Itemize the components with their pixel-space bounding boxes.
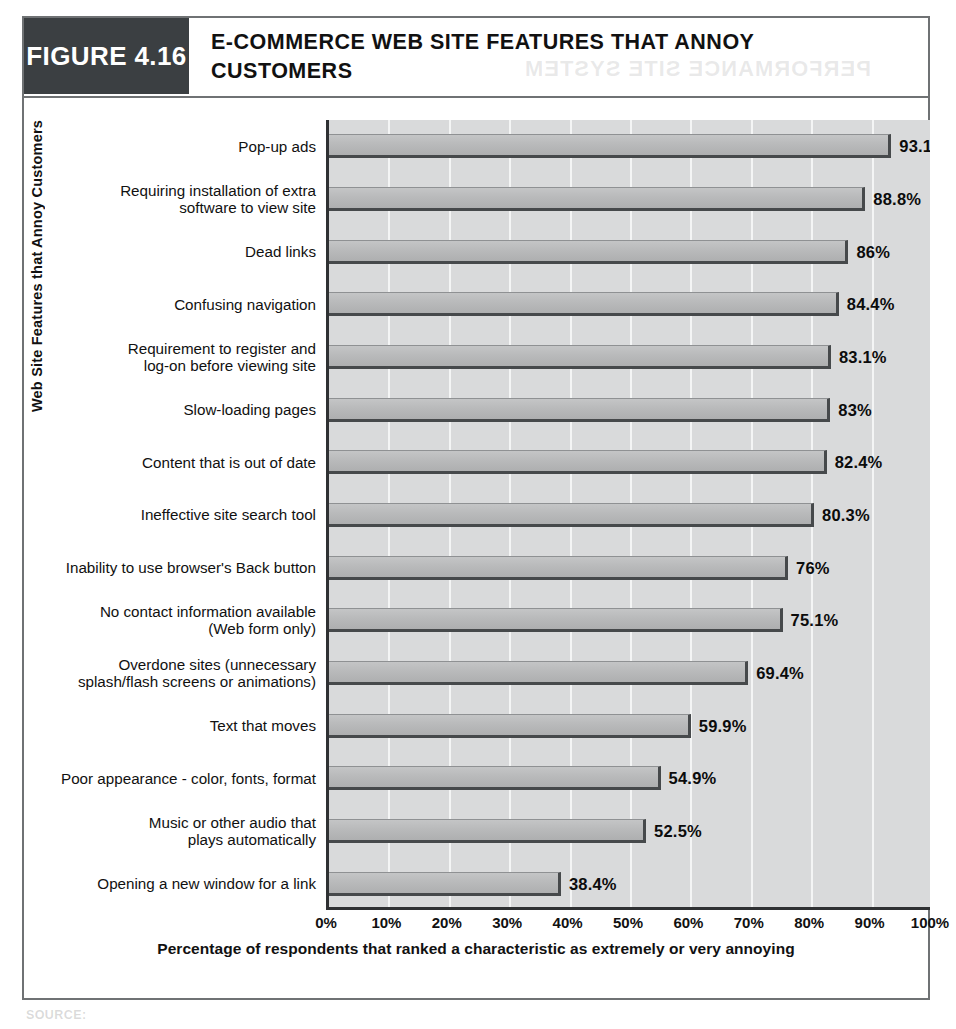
bar [329, 240, 848, 264]
bar-value-label: 83% [838, 398, 872, 422]
bar-value-label: 69.4% [756, 661, 804, 685]
bar-value-label: 52.5% [654, 819, 702, 843]
bar-value-label: 54.9% [669, 766, 717, 790]
bar-value-label: 76% [796, 556, 830, 580]
bar [329, 608, 783, 632]
x-axis-title: Percentage of respondents that ranked a … [24, 940, 928, 958]
category-label: Ineffective site search tool [141, 506, 316, 524]
x-tick-20%: 20% [432, 914, 462, 931]
x-tick-0%: 0% [315, 914, 337, 931]
bar-value-label: 82.4% [835, 450, 883, 474]
x-tick-50%: 50% [613, 914, 643, 931]
category-label: No contact information available (Web fo… [100, 603, 316, 638]
bar [329, 872, 561, 896]
category-label: Requiring installation of extra software… [120, 182, 316, 217]
category-label: Music or other audio that plays automati… [149, 814, 316, 849]
figure-title: E-COMMERCE WEB SITE FEATURES THAT ANNOY … [211, 28, 861, 85]
bar-value-label: 75.1% [791, 608, 839, 632]
category-label: Slow-loading pages [183, 401, 316, 419]
category-label: Dead links [245, 243, 316, 261]
bar [329, 556, 788, 580]
bar [329, 450, 827, 474]
bar [329, 187, 865, 211]
chart-body: Web Site Features that Annoy Customers P… [24, 96, 928, 998]
figure-frame: FIGURE 4.16 E-COMMERCE WEB SITE FEATURES… [22, 16, 930, 1000]
bar [329, 714, 691, 738]
bar-value-label: 80.3% [822, 503, 870, 527]
x-tick-80%: 80% [794, 914, 824, 931]
bar [329, 819, 646, 843]
x-tick-40%: 40% [553, 914, 583, 931]
figure-title-box: E-COMMERCE WEB SITE FEATURES THAT ANNOY … [189, 18, 928, 94]
category-label: Overdone sites (unnecessary splash/flash… [78, 656, 316, 691]
x-tick-60%: 60% [673, 914, 703, 931]
bar-value-label: 86% [856, 240, 890, 264]
gridline-90% [872, 120, 874, 907]
x-tick-70%: 70% [734, 914, 764, 931]
x-tick-10%: 10% [371, 914, 401, 931]
x-tick-100%: 100% [911, 914, 949, 931]
x-tick-30%: 30% [492, 914, 522, 931]
category-label: Confusing navigation [174, 296, 316, 314]
category-label: Pop-up ads [238, 138, 316, 156]
bar [329, 134, 891, 158]
bar-value-label: 83.1% [839, 345, 887, 369]
category-label: Poor appearance - color, fonts, format [61, 770, 316, 788]
figure-number: FIGURE 4.16 [26, 41, 186, 72]
source-note: SOURCE: [26, 1008, 86, 1022]
category-label: Inability to use browser's Back button [66, 559, 316, 577]
x-axis-tick-labels: 0%10%20%30%40%50%60%70%80%90%100% [326, 914, 930, 936]
x-tick-90%: 90% [855, 914, 885, 931]
plot-inner: 93.1%88.8%86%84.4%83.1%83%82.4%80.3%76%7… [329, 120, 930, 907]
bar [329, 345, 831, 369]
y-axis-title-text: Web Site Features that Annoy Customers [29, 120, 45, 412]
bar-value-label: 84.4% [847, 292, 895, 316]
bar [329, 398, 830, 422]
category-label: Opening a new window for a link [97, 875, 316, 893]
bar-value-label: 93.1% [899, 134, 930, 158]
bar-value-label: 59.9% [699, 714, 747, 738]
bar [329, 503, 814, 527]
category-label: Content that is out of date [142, 454, 316, 472]
plot-area: 93.1%88.8%86%84.4%83.1%83%82.4%80.3%76%7… [326, 120, 930, 910]
bar-value-label: 88.8% [873, 187, 921, 211]
y-axis-title: Web Site Features that Annoy Customers [26, 120, 48, 560]
bar [329, 661, 748, 685]
category-label: Text that moves [210, 717, 316, 735]
bar-value-label: 38.4% [569, 872, 617, 896]
figure-number-box: FIGURE 4.16 [24, 18, 189, 94]
figure-header: FIGURE 4.16 E-COMMERCE WEB SITE FEATURES… [24, 18, 928, 94]
bar [329, 292, 839, 316]
bar [329, 766, 661, 790]
category-label: Requirement to register and log-on befor… [128, 340, 316, 375]
